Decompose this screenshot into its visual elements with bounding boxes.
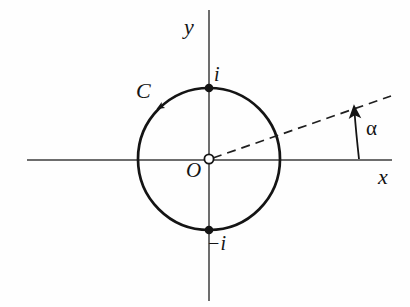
alpha-angle-arrow-icon: [355, 112, 360, 159]
point-i-label: i: [214, 64, 220, 84]
point-i-marker: [205, 84, 214, 93]
alpha-ray-dashed-line: [213, 96, 391, 158]
x-axis-label: x: [378, 166, 388, 188]
origin-label: O: [186, 160, 201, 181]
alpha-angle-label: α: [366, 118, 377, 139]
y-axis-label: y: [184, 16, 194, 38]
origin-marker: [204, 154, 213, 163]
diagram-svg: [0, 0, 410, 307]
contour-label: C: [136, 80, 151, 102]
figure-canvas: y x i −i O C α: [0, 0, 410, 307]
point-negative-i-label: −i: [207, 233, 226, 253]
